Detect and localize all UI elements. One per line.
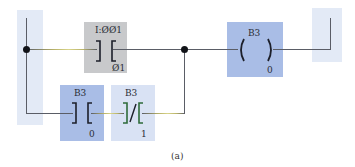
output-coil-icon xyxy=(238,38,274,62)
input-contact-bit: Ø1 xyxy=(112,64,125,73)
branch-wire-3 xyxy=(142,113,185,114)
branch-wire-1 xyxy=(26,113,73,114)
input-contact-address: I:ØØ1 xyxy=(95,26,122,35)
right-junction-dot xyxy=(181,46,188,53)
branch-return-wire xyxy=(184,49,185,114)
normally-open-contact-icon xyxy=(96,40,116,62)
left-power-rail-band xyxy=(17,10,43,125)
right-power-rail xyxy=(330,18,331,50)
main-rung-wire-3 xyxy=(273,49,331,50)
normally-closed-contact-icon xyxy=(123,102,143,124)
nc-contact-bit: 1 xyxy=(141,130,147,139)
branch-wire-2 xyxy=(91,113,124,114)
seal-contact-bit: 0 xyxy=(89,130,95,139)
output-coil-address: B3 xyxy=(248,29,260,38)
main-rung-wire-2 xyxy=(113,49,238,50)
seal-contact-address: B3 xyxy=(74,89,86,98)
left-junction-dot xyxy=(23,46,30,53)
figure-caption: (a) xyxy=(171,151,183,161)
left-power-rail xyxy=(26,18,27,114)
output-coil-bit: 0 xyxy=(267,66,273,75)
nc-contact-address: B3 xyxy=(125,89,137,98)
right-power-rail-band xyxy=(312,8,342,62)
normally-open-contact-icon xyxy=(72,102,92,124)
main-rung-wire-1 xyxy=(26,49,97,50)
